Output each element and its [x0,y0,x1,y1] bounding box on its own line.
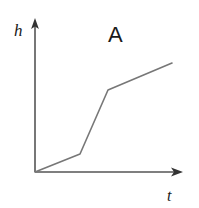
plot-background [0,0,199,208]
y-axis-label: h [14,21,23,40]
height-vs-time-plot: h A t [0,0,199,208]
x-axis-label: t [167,187,172,204]
panel-label: A [108,22,123,47]
figure-panel-a: h A t [0,0,199,208]
